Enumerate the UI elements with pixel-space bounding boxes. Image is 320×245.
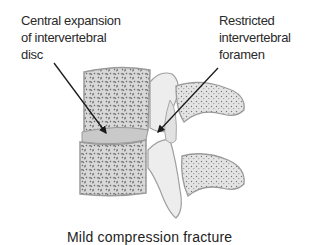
pedicle-lower (148, 140, 181, 218)
label-line: disc (21, 46, 121, 63)
label-line: Central expansion (21, 12, 121, 29)
label-line: intervertebral (219, 29, 291, 46)
foramen-label: Restricted intervertebral foramen (219, 12, 291, 63)
label-line: Restricted (219, 12, 291, 29)
lower-vertebral-body (80, 140, 146, 196)
label-line: foramen (219, 46, 291, 63)
upper-vertebral-body (84, 67, 150, 132)
figure-caption: Mild compression fracture (67, 229, 232, 245)
disc-expansion-label: Central expansion of intervertebral disc (21, 12, 121, 63)
label-line: of intervertebral (21, 29, 121, 46)
spinous-process-lower (182, 154, 245, 196)
